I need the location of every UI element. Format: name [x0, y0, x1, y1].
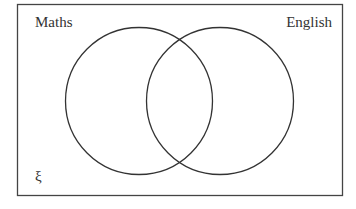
english-label: English — [286, 14, 332, 30]
universal-set-symbol: ξ — [35, 168, 42, 184]
maths-label: Maths — [35, 14, 73, 30]
venn-diagram: Maths English ξ — [0, 0, 356, 209]
